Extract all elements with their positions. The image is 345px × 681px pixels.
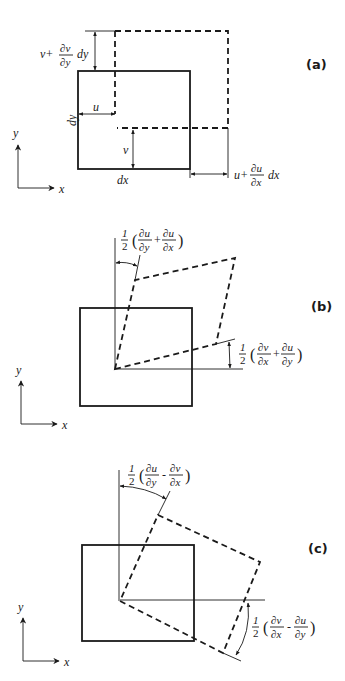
dx-label: dx [117,173,129,187]
rotated-element [120,515,260,653]
top-disp-prefix: v+ [40,47,53,61]
y-axis-label: y [12,126,19,140]
frac1-num: ∂u [139,227,150,239]
axes-b: y x [15,363,68,432]
frac1-den: ∂x [271,628,281,640]
half-den: 2 [240,354,246,366]
operator: - [162,468,166,482]
right-rotation-arc [236,603,249,655]
top-disp-den: ∂y [60,56,70,68]
panel-b-label: (b) [311,299,332,314]
axes-a: y x [12,126,65,196]
dy-label: dy [65,114,79,126]
frac1-num: ∂u [146,462,157,474]
half-den: 2 [253,627,259,639]
right-disp-num: ∂u [251,162,262,174]
x-axis-label: x [61,418,68,432]
frac2-den: ∂y [282,355,292,367]
u-label: u [93,100,99,114]
x-axis-label: x [63,655,70,669]
frac1-den: ∂x [258,355,268,367]
sheared-element [115,258,235,369]
axes-c: y x [17,600,70,669]
frac2-num: ∂u [163,227,174,239]
top-edge-extension [135,255,140,280]
right-disp-den: ∂x [251,176,261,188]
frac1-den: ∂y [139,241,149,253]
panel-a-label: (a) [306,57,327,72]
open-paren: ( [132,232,137,250]
frac1-num: ∂v [271,614,281,626]
frac2-num: ∂v [170,462,180,474]
half-num: 1 [253,614,259,626]
top-disp-num: ∂v [60,42,70,54]
original-element [80,308,192,406]
top-rotation-arc [120,486,166,499]
close-paren: ) [185,467,190,485]
half-den: 2 [129,475,135,487]
operator: + [154,233,161,247]
x-axis-label: x [58,182,65,196]
frac2-den: ∂x [170,476,180,488]
top-angle-arrow [116,262,137,266]
panel-c: (c) 1 2 ( ∂u ∂y - ∂v ∂x ) 1 2 ( ∂v [17,462,328,669]
panel-b: (b) 1 2 ( ∂u ∂y + ∂u ∂x ) 1 2 ( [15,227,332,432]
close-paren: ) [297,346,302,364]
half-num: 1 [240,341,246,353]
panel-c-label: (c) [308,541,328,556]
panel-a: (a) v+ ∂v ∂y dy u dy v dx u+ ∂u ∂x dx [12,31,327,196]
frac2-num: ∂u [295,614,306,626]
frac1-den: ∂y [146,476,156,488]
top-disp-suffix: dy [77,47,89,61]
shear-angle-right-expression: 1 2 ( ∂v ∂x + ∂u ∂y ) [239,341,302,367]
close-paren: ) [178,232,183,250]
v-label: v [123,143,129,157]
frac2-den: ∂y [295,628,305,640]
half-den: 2 [122,240,128,252]
right-edge-extension [223,653,241,661]
operator: - [287,620,291,634]
open-paren: ( [263,619,268,637]
open-paren: ( [139,467,144,485]
strain-rotation-figure: (a) v+ ∂v ∂y dy u dy v dx u+ ∂u ∂x dx [0,0,345,681]
frac2-num: ∂u [282,341,293,353]
right-disp-suffix: dx [268,168,280,182]
frac1-num: ∂v [258,341,268,353]
right-disp-prefix: u+ [234,168,248,182]
frac2-den: ∂x [163,241,173,253]
right-angle-arrow [229,342,230,368]
y-axis-label: y [17,600,24,614]
shear-angle-top-expression: 1 2 ( ∂u ∂y + ∂u ∂x ) [121,227,183,253]
half-num: 1 [129,462,135,474]
rotation-right-expression: 1 2 ( ∂v ∂x - ∂u ∂y ) [252,614,315,640]
displaced-element [115,31,228,128]
operator: + [273,347,280,361]
rotation-top-expression: 1 2 ( ∂u ∂y - ∂v ∂x ) [128,462,190,488]
half-num: 1 [122,227,128,239]
open-paren: ( [250,346,255,364]
close-paren: ) [310,619,315,637]
right-edge-extension [216,339,235,344]
original-element [78,71,190,169]
top-edge-extension [158,491,170,515]
y-axis-label: y [15,363,22,377]
